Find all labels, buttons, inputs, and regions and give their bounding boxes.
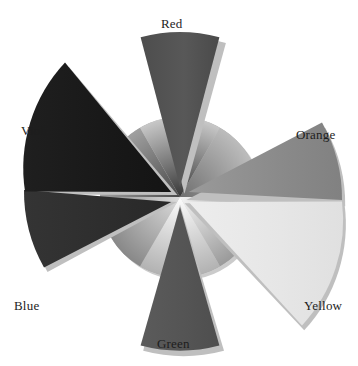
color-wheel-figure: Red Orange Yellow Green Blue Violet: [0, 0, 358, 366]
wheel-label-violet: Violet: [21, 124, 54, 137]
wheel-label-green: Green: [157, 337, 190, 350]
wheel-label-orange: Orange: [296, 128, 335, 141]
wheel-label-yellow: Yellow: [304, 299, 342, 312]
wheel-label-red: Red: [161, 17, 183, 30]
wheel-label-blue: Blue: [14, 299, 39, 312]
